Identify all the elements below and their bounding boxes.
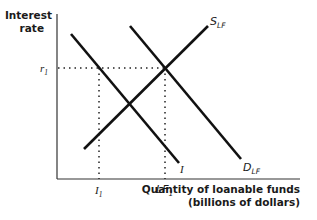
investment-curve	[71, 34, 179, 163]
loanable-funds-diagram: Interest rate r1 SLF DLF I I1 LF1 Quanti…	[0, 0, 317, 220]
investment-label: I	[179, 163, 185, 175]
y-axis-label-line1: Interest	[5, 9, 52, 21]
dlf-label: DLF	[243, 161, 261, 176]
demand-curve-dlf	[130, 26, 241, 159]
slf-label: SLF	[210, 15, 226, 30]
x-axis-label-line2: (billions of dollars)	[188, 196, 300, 208]
y-axis-label-line2: rate	[20, 22, 44, 34]
x-axis-label-line1: Quantity of loanable funds	[142, 183, 300, 195]
i1-label: I1	[94, 184, 102, 199]
r1-label: r1	[40, 62, 48, 77]
